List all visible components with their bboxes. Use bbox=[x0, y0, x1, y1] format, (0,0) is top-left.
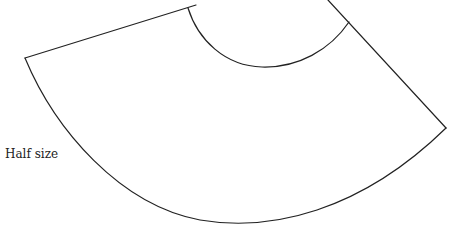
pattern-top-edge bbox=[25, 5, 196, 58]
waist-curve bbox=[188, 8, 349, 67]
scale-label: Half size bbox=[5, 147, 58, 161]
hem-curve bbox=[25, 58, 446, 223]
pattern-diagram bbox=[0, 0, 456, 227]
pattern-right-edge bbox=[328, 0, 446, 128]
